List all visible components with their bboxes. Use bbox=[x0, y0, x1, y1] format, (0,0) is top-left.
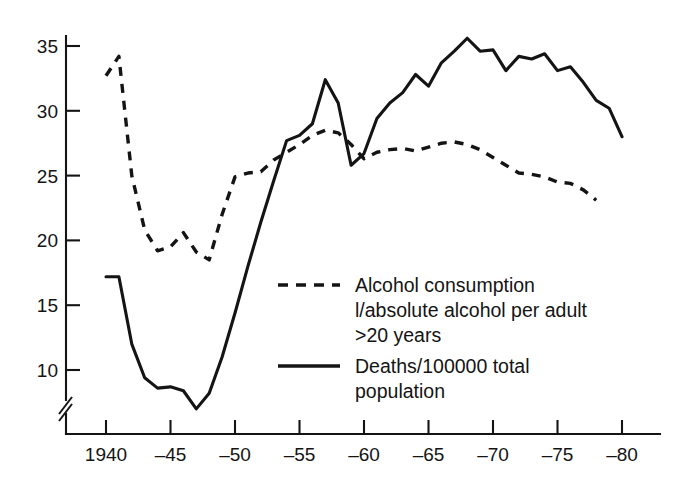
y-axis-ticks: 101520253035 bbox=[37, 36, 80, 381]
x-tick-label: –55 bbox=[284, 444, 316, 465]
chart-legend: Alcohol consumption l/absolute alcohol p… bbox=[278, 274, 588, 402]
series-deaths-line bbox=[106, 38, 622, 409]
legend-entry-1-line-1: population bbox=[355, 380, 445, 402]
x-tick-label: 1940 bbox=[85, 444, 127, 465]
legend-entry-0-line-0: Alcohol consumption bbox=[355, 274, 535, 296]
y-tick-label: 20 bbox=[37, 230, 58, 251]
y-tick-label: 15 bbox=[37, 295, 58, 316]
x-tick-label: –50 bbox=[219, 444, 251, 465]
y-tick-label: 10 bbox=[37, 360, 58, 381]
legend-entry-0-line-1: l/absolute alcohol per adult bbox=[355, 299, 588, 321]
x-tick-label: –65 bbox=[413, 444, 445, 465]
legend-entry-0-line-2: >20 years bbox=[355, 324, 441, 346]
x-tick-label: –70 bbox=[477, 444, 509, 465]
x-tick-label: –75 bbox=[542, 444, 574, 465]
line-chart-canvas: 101520253035 1940–45–50–55–60–65–70–75–8… bbox=[0, 0, 677, 480]
y-tick-label: 25 bbox=[37, 166, 58, 187]
x-tick-label: –60 bbox=[348, 444, 380, 465]
legend-entry-1-line-0: Deaths/100000 total bbox=[355, 355, 530, 377]
x-tick-label: –45 bbox=[155, 444, 187, 465]
x-axis-ticks: 1940–45–50–55–60–65–70–75–80 bbox=[85, 420, 638, 465]
y-tick-label: 30 bbox=[37, 101, 58, 122]
x-tick-label: –80 bbox=[606, 444, 638, 465]
chart-figure: 101520253035 1940–45–50–55–60–65–70–75–8… bbox=[0, 0, 677, 480]
series-group bbox=[106, 38, 622, 409]
y-tick-label: 35 bbox=[37, 36, 58, 57]
